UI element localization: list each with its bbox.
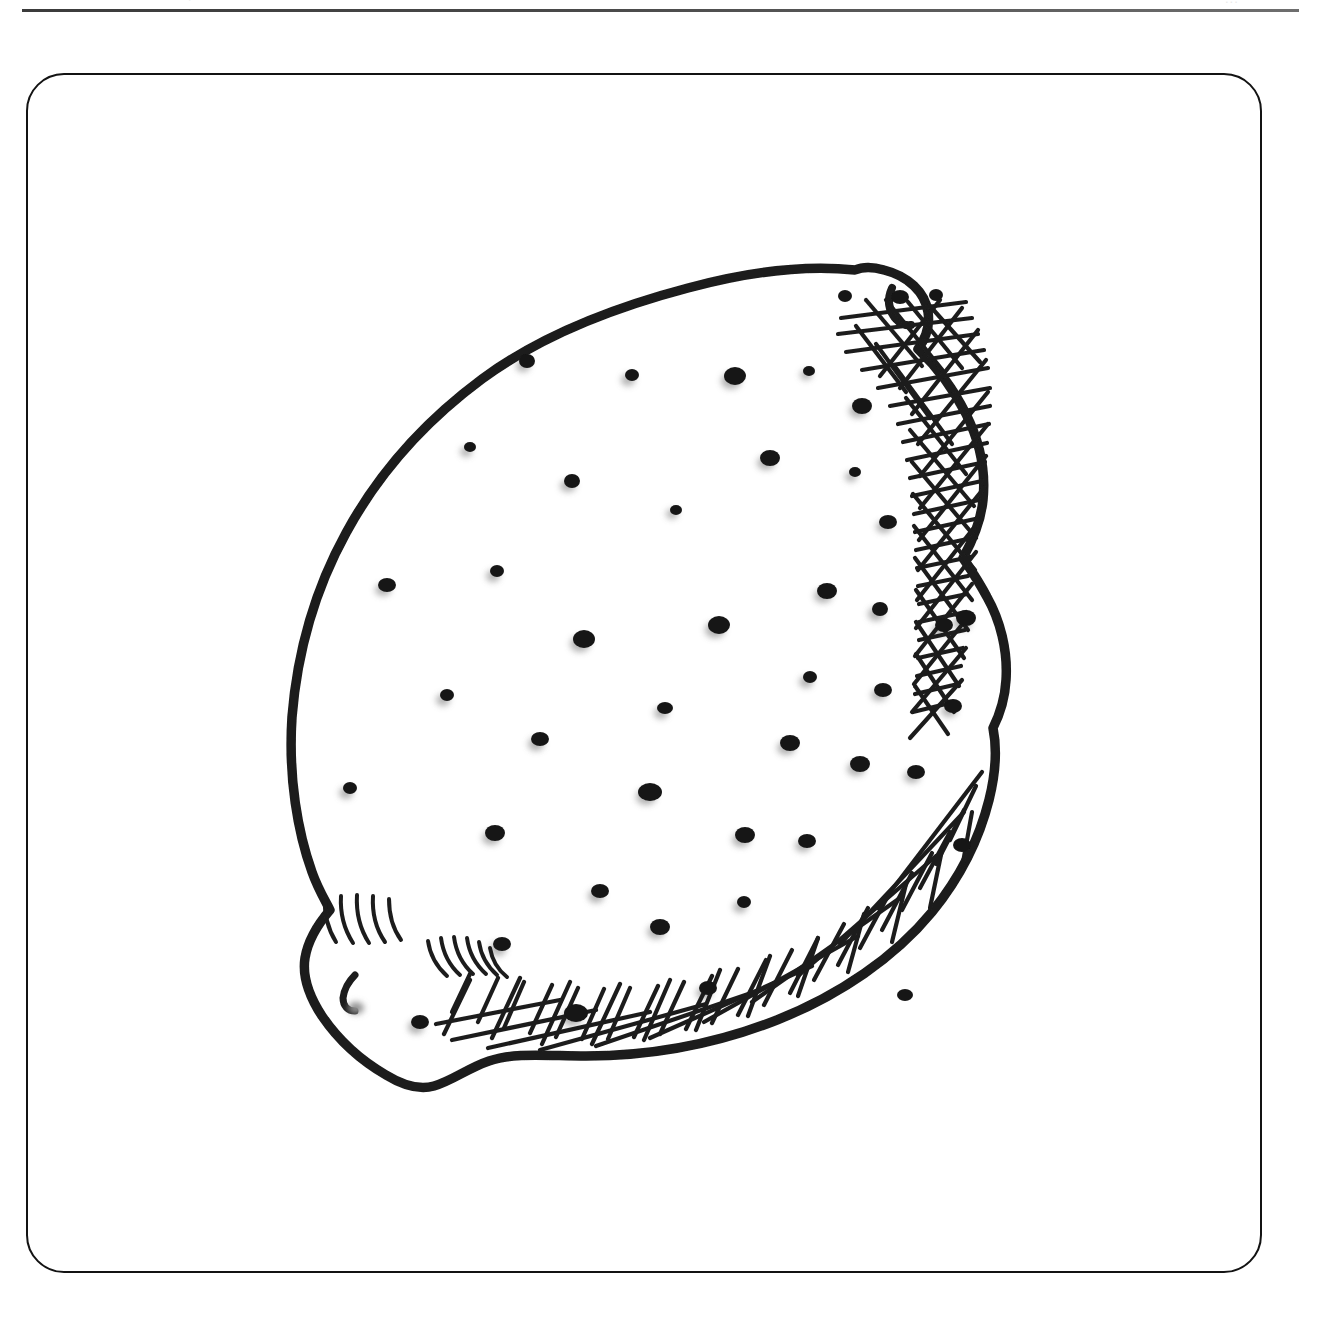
header-cropped-text-right: ... [1225, 0, 1239, 6]
illustration-frame [26, 73, 1262, 1273]
running-header: . ... [0, 0, 1330, 16]
page-canvas: . ... [0, 0, 1330, 1341]
header-cropped-text-left: . [188, 0, 191, 4]
header-rule [22, 9, 1299, 12]
